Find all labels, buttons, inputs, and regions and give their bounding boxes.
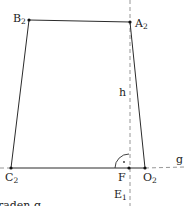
label-c2: C2 — [5, 171, 18, 185]
caption-fragment: raden g — [0, 199, 41, 206]
point-f — [127, 166, 130, 169]
label-e1: E1 — [114, 188, 127, 202]
edge-b2-c2 — [11, 20, 29, 168]
edge-b2-a2 — [29, 20, 130, 22]
label-h: h — [119, 86, 126, 99]
point-o2 — [143, 166, 146, 169]
label-f: F — [118, 171, 126, 184]
point-c2 — [9, 166, 12, 169]
label-g: g — [176, 153, 183, 166]
label-b2: B2 — [13, 12, 26, 26]
label-o2: O2 — [143, 171, 157, 185]
label-a2: A2 — [134, 17, 148, 31]
dashed-line-g-right — [145, 167, 185, 168]
right-angle-arc — [115, 154, 129, 168]
trapezoid-diagram: B2 A2 h C2 F O2 g E1 raden g — [0, 0, 185, 206]
point-b2 — [27, 18, 30, 21]
edge-a2-o2 — [130, 22, 145, 168]
point-a2 — [128, 20, 131, 23]
right-angle-dot — [123, 161, 125, 163]
